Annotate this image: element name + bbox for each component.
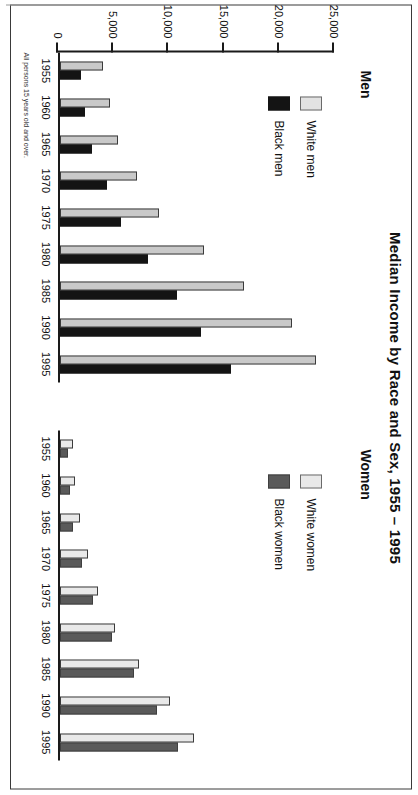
- scanned-page: Median Income by Race and Sex, 1955 – 19…: [0, 0, 418, 795]
- legend-swatch-black-men: [268, 96, 290, 110]
- legend-label-black-women: Black women: [272, 498, 286, 569]
- x-axis-labels-women: 195519601965197019751980198519901995: [36, 430, 52, 760]
- bar-pair-1955: [60, 52, 334, 89]
- bar-white-women-1965: [60, 513, 80, 522]
- legend-label-white-men: White men: [304, 120, 318, 177]
- bar-pair-1975: [60, 577, 334, 614]
- bar-pair-1995: [60, 345, 334, 382]
- x-axis-tick-label-1975: 1975: [36, 199, 52, 236]
- bar-white-men-1955: [60, 61, 103, 70]
- bar-black-women-1990: [60, 705, 157, 714]
- bar-white-women-1960: [60, 476, 75, 485]
- x-axis-tick-label-1985: 1985: [36, 272, 52, 309]
- bar-black-women-1965: [60, 522, 73, 531]
- bar-white-women-1995: [60, 733, 194, 742]
- bar-black-men-1980: [60, 254, 148, 263]
- bar-black-men-1955: [60, 70, 81, 79]
- x-axis-tick-label-1990: 1990: [36, 687, 52, 724]
- bar-white-women-1975: [60, 586, 98, 595]
- chart-canvas: Median Income by Race and Sex, 1955 – 19…: [0, 0, 418, 795]
- legend-swatch-white-men: [300, 96, 322, 110]
- bar-white-men-1965: [60, 135, 119, 144]
- x-axis-tick-label-1970: 1970: [36, 162, 52, 199]
- y-axis-tick-label: 10,000: [162, 0, 174, 38]
- y-axis-tick-label: 25,000: [328, 0, 340, 38]
- bar-black-men-1975: [60, 217, 121, 226]
- legend-item-black-men: Black men: [268, 96, 290, 177]
- bar-white-men-1975: [60, 208, 159, 217]
- bar-black-men-1985: [60, 290, 177, 299]
- x-axis-tick-label-1965: 1965: [36, 125, 52, 162]
- x-axis-tick-label-1975: 1975: [36, 577, 52, 614]
- bar-black-men-1970: [60, 180, 107, 189]
- bar-black-women-1975: [60, 595, 93, 604]
- bar-white-men-1990: [60, 318, 292, 327]
- x-axis-tick-label-1970: 1970: [36, 540, 52, 577]
- x-axis-tick-label-1965: 1965: [36, 503, 52, 540]
- y-axis-tick-label: 15,000: [218, 0, 230, 38]
- legend-swatch-white-women: [300, 474, 322, 488]
- x-axis-tick-label-1985: 1985: [36, 650, 52, 687]
- bar-black-men-1960: [60, 107, 85, 116]
- legend-item-white-women: White women: [300, 474, 322, 571]
- bar-pair-1975: [60, 199, 334, 236]
- bar-white-women-1955: [60, 439, 73, 448]
- bar-black-men-1990: [60, 327, 201, 336]
- x-axis-tick-label-1980: 1980: [36, 235, 52, 272]
- x-axis-tick-label-1995: 1995: [36, 723, 52, 760]
- legend-men: White men Black men: [258, 96, 322, 177]
- legend-swatch-black-women: [268, 474, 290, 488]
- bar-black-women-1995: [60, 742, 178, 751]
- y-axis-tick-label: 5,000: [107, 0, 119, 38]
- x-axis-tick-label-1960: 1960: [36, 467, 52, 504]
- x-axis-tick-label-1995: 1995: [36, 345, 52, 382]
- chart-title: Median Income by Race and Sex, 1955 – 19…: [387, 0, 404, 795]
- x-axis-line-women: [58, 430, 60, 760]
- bar-white-women-1980: [60, 623, 115, 632]
- bar-pair-1985: [60, 650, 334, 687]
- legend-item-black-women: Black women: [268, 474, 290, 571]
- panel-label-women: Women: [358, 449, 374, 499]
- x-axis-tick-label-1960: 1960: [36, 89, 52, 126]
- legend-women: White women Black women: [258, 474, 322, 571]
- y-axis-tick-label: 0: [52, 0, 64, 38]
- bar-black-women-1985: [60, 668, 134, 677]
- x-axis-labels-men: 195519601965197019751980198519901995: [36, 52, 52, 382]
- bar-white-men-1970: [60, 171, 137, 180]
- y-axis-tick-label: 20,000: [273, 0, 285, 38]
- bar-black-men-1965: [60, 144, 92, 153]
- y-axis-tick: [277, 42, 279, 52]
- bar-white-men-1980: [60, 245, 204, 254]
- x-axis-tick-label-1955: 1955: [36, 430, 52, 467]
- bar-pair-1990: [60, 309, 334, 346]
- bar-white-women-1970: [60, 549, 88, 558]
- x-axis-tick-label-1980: 1980: [36, 613, 52, 650]
- y-axis-tick: [111, 42, 113, 52]
- chart-footnote: All persons 15 years old and over.: [23, 52, 30, 157]
- bar-pair-1985: [60, 272, 334, 309]
- x-axis-line-men: [58, 52, 60, 382]
- bar-white-women-1990: [60, 696, 170, 705]
- y-axis-tick: [222, 42, 224, 52]
- bar-pair-1995: [60, 723, 334, 760]
- bar-pair-1980: [60, 613, 334, 650]
- bar-black-men-1995: [60, 364, 231, 373]
- bar-white-men-1995: [60, 355, 316, 364]
- bar-pair-1990: [60, 687, 334, 724]
- bar-black-women-1980: [60, 632, 112, 641]
- y-axis: 25,00020,00015,00010,0005,0000: [56, 40, 334, 52]
- legend-label-white-women: White women: [304, 498, 318, 571]
- y-axis-tick: [332, 42, 334, 52]
- panel-label-men: Men: [358, 70, 374, 98]
- bar-pair-1955: [60, 430, 334, 467]
- y-axis-tick: [56, 42, 58, 52]
- bar-black-women-1955: [60, 448, 68, 457]
- legend-item-white-men: White men: [300, 96, 322, 177]
- bar-white-women-1985: [60, 659, 139, 668]
- bar-white-men-1985: [60, 281, 244, 290]
- legend-label-black-men: Black men: [272, 120, 286, 176]
- bar-black-women-1960: [60, 485, 70, 494]
- bar-white-men-1960: [60, 98, 110, 107]
- bar-black-women-1970: [60, 558, 82, 567]
- x-axis-tick-label-1990: 1990: [36, 309, 52, 346]
